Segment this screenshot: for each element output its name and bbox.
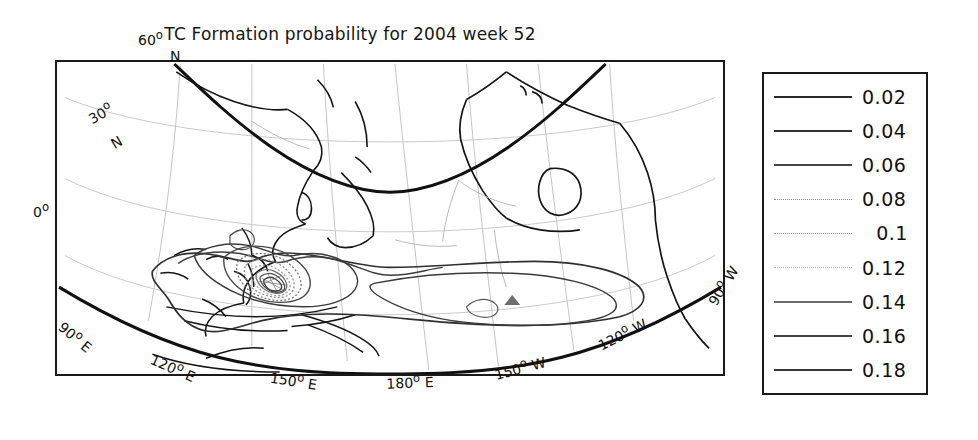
legend-level-label: 0.14 <box>862 291 922 313</box>
legend-line-swatch <box>774 233 852 234</box>
figure-root: TC Formation probability for 2004 week 5… <box>0 0 978 440</box>
lat-label-60n-hemisphere: N <box>170 48 180 64</box>
legend-row[interactable]: 0.12 <box>764 253 926 283</box>
map-borders <box>252 121 516 287</box>
legend-line-swatch <box>774 199 852 200</box>
legend-line-swatch <box>774 130 852 132</box>
graticule-parallels <box>65 98 715 315</box>
legend-line-swatch <box>774 164 852 166</box>
legend-level-label: 0.08 <box>862 188 922 210</box>
legend-level-label: 0.04 <box>862 120 922 142</box>
legend-row[interactable]: 0.08 <box>764 184 926 214</box>
legend-row[interactable]: 0.02 <box>764 82 926 112</box>
legend-line-swatch <box>774 301 852 303</box>
legend-row[interactable]: 0.16 <box>764 321 926 351</box>
lat-label-60n: 60o <box>138 28 163 48</box>
coastline-maritime-asia <box>152 228 379 372</box>
legend-level-label: 0.02 <box>862 86 922 108</box>
legend-row-list: 0.020.040.060.080.10.120.140.160.18 <box>764 74 926 393</box>
contour-legend: 0.020.040.060.080.10.120.140.160.18 <box>762 72 928 395</box>
legend-row[interactable]: 0.1 <box>764 218 926 248</box>
figure-title: TC Formation probability for 2004 week 5… <box>0 24 700 44</box>
lon-label-180e: 180o E <box>386 370 434 391</box>
legend-level-label: 0.1 <box>862 222 922 244</box>
legend-row[interactable]: 0.04 <box>764 116 926 146</box>
legend-line-swatch <box>774 335 852 337</box>
legend-level-label: 0.06 <box>862 154 922 176</box>
legend-row[interactable]: 0.14 <box>764 287 926 317</box>
legend-row[interactable]: 0.18 <box>764 355 926 385</box>
legend-line-swatch <box>774 267 852 268</box>
legend-line-swatch <box>774 369 852 371</box>
legend-level-label: 0.18 <box>862 359 922 381</box>
legend-row[interactable]: 0.06 <box>764 150 926 180</box>
marker-triangle <box>504 295 520 305</box>
legend-level-label: 0.12 <box>862 257 922 279</box>
legend-level-label: 0.16 <box>862 325 922 347</box>
lat-label-0: 0o <box>33 200 49 220</box>
legend-line-swatch <box>774 96 852 98</box>
